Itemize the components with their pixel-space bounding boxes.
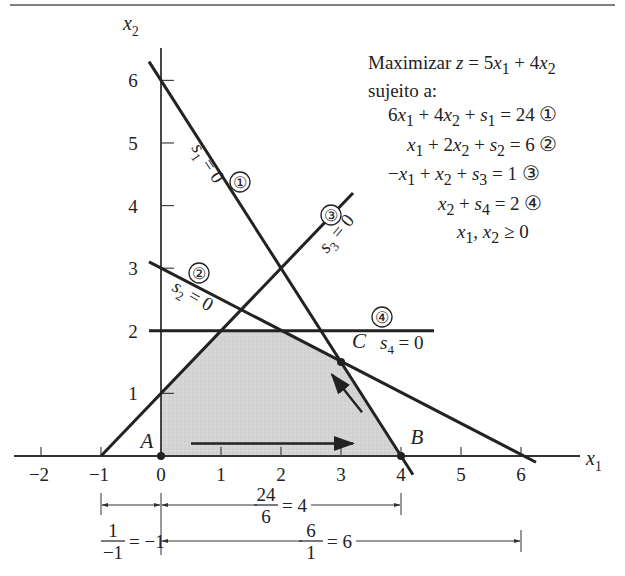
corner-point-label-a: A bbox=[139, 429, 154, 453]
ratio-result: = 6 bbox=[327, 531, 352, 552]
ratio-numerator: 6 bbox=[306, 520, 316, 541]
constraint-equation-2: x1 + 2x2 + s2 = 6 ② bbox=[368, 133, 618, 162]
ratio-denominator: −1 bbox=[103, 542, 123, 563]
constraint-badge-2: ② bbox=[189, 263, 209, 283]
y-tick-label: 6 bbox=[128, 70, 138, 91]
objective-row: Maximizar z = 5x1 + 4x2 bbox=[368, 52, 618, 80]
corner-point-c bbox=[337, 358, 345, 366]
y-tick-label: 5 bbox=[128, 133, 138, 154]
corner-point-label-b: B bbox=[411, 425, 424, 449]
circle-badge-number: ③ bbox=[324, 207, 338, 224]
lp-model-panel: Maximizar z = 5x1 + 4x2 sujeito a: 6x1 +… bbox=[368, 52, 618, 249]
x-tick-label: 2 bbox=[276, 464, 286, 485]
circle-badge-number: ① bbox=[233, 174, 247, 191]
circle-badge-number: ④ bbox=[375, 309, 389, 326]
constraint-equation-4: x2 + s4 = 2 ④ bbox=[368, 192, 618, 221]
corner-point-a bbox=[157, 452, 165, 460]
y-tick-label: 1 bbox=[128, 383, 138, 404]
constraint-number-icon: ③ bbox=[522, 162, 540, 184]
y-tick-label: 3 bbox=[128, 258, 138, 279]
ratio-denominator: 1 bbox=[306, 542, 316, 563]
y-tick-label: 4 bbox=[128, 196, 138, 217]
ratio-24-over-6: 246= 4 bbox=[254, 484, 307, 527]
x-tick-label: 6 bbox=[516, 464, 526, 485]
x-tick-label: 4 bbox=[396, 464, 406, 485]
nonnegativity-constraint: x1, x2 ≥ 0 bbox=[368, 221, 618, 249]
x-tick-label: −2 bbox=[29, 464, 49, 485]
constraint-badge-1: ① bbox=[230, 172, 250, 192]
constraint-number-icon: ④ bbox=[524, 192, 542, 214]
constraint-badge-3: ③ bbox=[321, 205, 341, 225]
constraint-number-icon: ① bbox=[539, 103, 557, 125]
ratio-1-over-minus1: 1−1= −1 bbox=[101, 520, 165, 563]
x-tick-label: 5 bbox=[456, 464, 466, 485]
ratio-result: = 4 bbox=[282, 495, 307, 516]
ratio-6-over-1: 61= 6 bbox=[299, 520, 352, 563]
ratio-numerator: 24 bbox=[257, 484, 277, 505]
constraint-equation-1: 6x1 + 4x2 + s1 = 24 ① bbox=[368, 103, 618, 132]
constraint-number-icon: ② bbox=[539, 133, 557, 155]
corner-point-b bbox=[397, 452, 405, 460]
ratio-result: = −1 bbox=[129, 531, 165, 552]
ratio-denominator: 6 bbox=[261, 506, 271, 527]
x-tick-label: 1 bbox=[216, 464, 226, 485]
x-tick-label: −1 bbox=[89, 464, 109, 485]
constraint-equation-3: −x1 + x2 + s3 = 1 ③ bbox=[368, 162, 618, 191]
x-tick-label: 0 bbox=[156, 464, 166, 485]
y-tick-label: 2 bbox=[128, 321, 138, 342]
ratio-numerator: 1 bbox=[108, 520, 118, 541]
circle-badge-number: ② bbox=[192, 265, 206, 282]
x1-axis-label: x1 bbox=[585, 447, 602, 474]
x-tick-label: 3 bbox=[336, 464, 346, 485]
constraint-badge-4: ④ bbox=[372, 307, 392, 327]
corner-point-label-c: C bbox=[352, 329, 367, 353]
line-label-s1: s1 = 0 bbox=[184, 139, 229, 189]
subject-to-label: sujeito a: bbox=[368, 80, 618, 102]
x2-axis-label: x2 bbox=[122, 12, 139, 39]
line-label-s4: s4 = 0 bbox=[380, 332, 424, 357]
